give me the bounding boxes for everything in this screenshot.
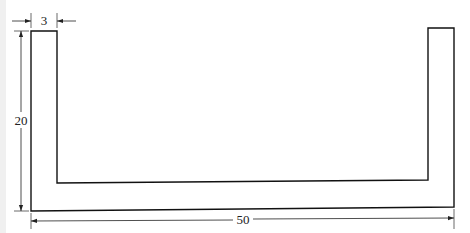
width-dimension: 50 — [31, 209, 454, 229]
channel-outline — [31, 28, 454, 211]
u-channel-drawing: 3 20 50 — [0, 0, 470, 233]
height-label: 20 — [15, 113, 28, 128]
width-label: 50 — [237, 212, 250, 227]
thickness-label: 3 — [41, 13, 48, 28]
thickness-dimension: 3 — [12, 13, 76, 28]
height-dimension: 20 — [13, 31, 30, 211]
